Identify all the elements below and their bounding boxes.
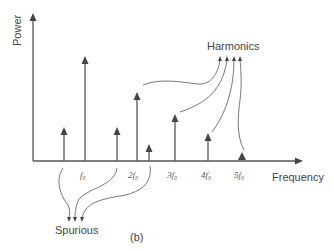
arrow-head-icon — [134, 92, 141, 100]
stem-spurious-2 — [114, 127, 121, 161]
tick-label-f0: f₀ — [80, 170, 86, 180]
arrow-head-icon — [82, 56, 89, 64]
harmonics-pointers — [143, 56, 244, 150]
arrow-head-icon — [172, 114, 179, 122]
x-axis-label: Frequency — [272, 171, 324, 183]
tick-label-3f0: 3f₀ — [166, 170, 177, 180]
panel-label: (b) — [130, 231, 143, 243]
spurious-label: Spurious — [55, 224, 99, 236]
tick-label-4f0: 4f₀ — [201, 170, 211, 180]
arrow-head-icon — [61, 127, 68, 135]
stem-spurious-3 — [146, 144, 153, 161]
stem-2f0 — [134, 92, 141, 161]
stem-spurious-1 — [61, 127, 68, 161]
x-axis — [33, 158, 303, 165]
tick-label-2f0: 2f₀ — [128, 170, 138, 180]
x-axis-arrow-icon — [295, 158, 303, 165]
y-axis — [30, 13, 37, 161]
tick-label-5f0: 5f₀ — [234, 170, 244, 180]
stem-4f0 — [205, 133, 212, 161]
y-axis-arrow-icon — [30, 13, 37, 21]
y-axis-label: Power — [11, 14, 23, 46]
stem-3f0 — [172, 114, 179, 161]
spectrum-diagram: Power Frequency f₀ 2f₀ — [0, 0, 333, 250]
arrow-head-icon — [205, 133, 212, 141]
arrow-head-icon — [146, 144, 153, 152]
arrow-head-icon — [114, 127, 121, 135]
arrow-head-icon — [238, 152, 246, 160]
stem-5f0 — [238, 152, 246, 160]
harmonics-label: Harmonics — [207, 40, 260, 52]
stem-f0 — [82, 56, 89, 161]
